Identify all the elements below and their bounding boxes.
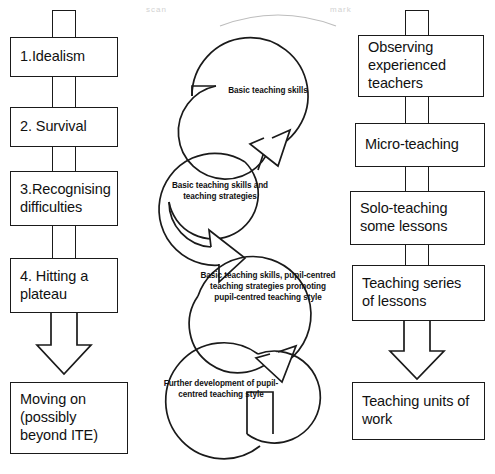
box-experience-2: Micro-teaching — [355, 123, 485, 167]
cycle-2-label: Basic teaching skills and teaching strat… — [156, 180, 284, 202]
connector-stage-2-to-3 — [52, 146, 76, 172]
box-experience-outcome-label: Teaching units of work — [362, 393, 475, 428]
box-stage-2-label: 2. Survival — [20, 118, 87, 136]
box-experience-3: Solo-teaching some lessons — [350, 191, 485, 245]
box-experience-4: Teaching series of lessons — [352, 265, 485, 321]
box-stage-1-label: 1.Idealism — [20, 48, 85, 66]
diagram-canvas: scan mark 1.Idealism 2. Survival 3.Recog… — [0, 0, 495, 474]
connector-stage-3-to-4 — [52, 225, 76, 259]
box-stage-4-label: 4. Hitting a plateau — [20, 268, 108, 303]
box-stage-4: 4. Hitting a plateau — [10, 258, 118, 313]
connector-experience-2-to-3 — [405, 166, 429, 192]
box-experience-1: Observing experienced teachers — [358, 35, 484, 97]
box-experience-2-label: Micro-teaching — [365, 136, 459, 154]
box-stage-3-label: 3.Recognising difficulties — [20, 181, 111, 216]
arrow-stage-4-to-outcome — [32, 312, 96, 377]
connector-stage-1-to-2 — [52, 76, 76, 108]
box-experience-outcome: Teaching units of work — [352, 382, 485, 440]
connector-experience-1-to-2 — [405, 96, 429, 124]
scan-artifact-left: scan — [146, 5, 167, 14]
cycle-4-label: Further development of pupil-centred tea… — [158, 378, 284, 400]
box-experience-3-label: Solo-teaching some lessons — [360, 200, 475, 235]
box-stage-3: 3.Recognising difficulties — [10, 171, 118, 226]
arrow-experience-4-to-outcome — [385, 320, 449, 382]
box-stage-outcome-label: Moving on (possibly beyond ITE) — [20, 391, 118, 444]
connector-top-experience-1 — [405, 10, 429, 37]
box-stage-2: 2. Survival — [10, 107, 118, 147]
cycle-1-label: Basic teaching skills — [213, 85, 323, 96]
connector-top-stage-1 — [52, 10, 76, 39]
cycle-3-label: Basic teaching skills, pupil-centred tea… — [200, 270, 336, 303]
connector-experience-3-to-4 — [405, 244, 429, 266]
box-stage-1: 1.Idealism — [10, 37, 118, 77]
cycle-4-arrow — [150, 330, 282, 474]
box-experience-4-label: Teaching series of lessons — [362, 275, 475, 310]
box-stage-outcome: Moving on (possibly beyond ITE) — [10, 382, 128, 454]
box-experience-1-label: Observing experienced teachers — [368, 39, 474, 92]
